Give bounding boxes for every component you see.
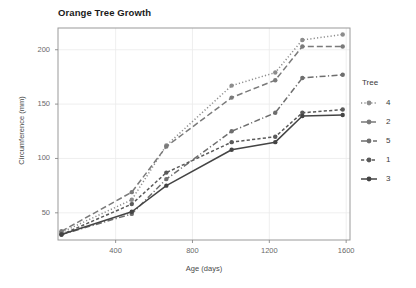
data-point-3 bbox=[59, 232, 63, 236]
y-axis-tick-label-text: 100 bbox=[37, 153, 50, 162]
legend-item-label: 5 bbox=[386, 136, 390, 145]
data-point-2 bbox=[341, 44, 345, 48]
x-axis-tick-label: 1200 bbox=[249, 246, 289, 255]
data-point-5 bbox=[341, 73, 345, 77]
legend-item-label: 1 bbox=[386, 155, 390, 164]
data-point-2 bbox=[164, 144, 168, 148]
data-point-3 bbox=[229, 148, 233, 152]
legend-key-icon bbox=[360, 153, 378, 167]
data-point-5 bbox=[300, 76, 304, 80]
data-point-1 bbox=[130, 202, 134, 206]
legend-item-2[interactable]: 2 bbox=[360, 115, 412, 129]
y-axis-tick-label: 100 bbox=[22, 153, 50, 163]
data-point-2 bbox=[300, 44, 304, 48]
data-point-1 bbox=[164, 170, 168, 174]
data-point-3 bbox=[341, 113, 345, 117]
legend-item-label: 2 bbox=[386, 117, 390, 126]
data-point-4 bbox=[229, 83, 233, 87]
x-axis-tick-label: 1600 bbox=[326, 246, 366, 255]
chart-title: Orange Tree Growth bbox=[58, 7, 151, 18]
data-point-3 bbox=[130, 210, 134, 214]
data-point-3 bbox=[164, 183, 168, 187]
data-point-4 bbox=[300, 38, 304, 42]
x-axis-tick-label: 800 bbox=[172, 246, 212, 255]
legend-item-label: 4 bbox=[386, 98, 390, 107]
plot-area bbox=[0, 0, 416, 288]
legend-item-3[interactable]: 3 bbox=[360, 172, 412, 186]
legend-item-4[interactable]: 4 bbox=[360, 96, 412, 110]
data-point-4 bbox=[130, 198, 134, 202]
data-point-4 bbox=[273, 70, 277, 74]
legend-item-5[interactable]: 5 bbox=[360, 134, 412, 148]
x-axis-label: Age (days) bbox=[58, 264, 350, 273]
data-point-5 bbox=[229, 129, 233, 133]
data-point-1 bbox=[229, 140, 233, 144]
y-axis-tick-label: 150 bbox=[22, 99, 50, 109]
legend-key-icon bbox=[360, 134, 378, 148]
data-point-2 bbox=[273, 78, 277, 82]
legend-key-icon bbox=[360, 96, 378, 110]
legend-key-icon bbox=[360, 115, 378, 129]
data-point-2 bbox=[229, 95, 233, 99]
x-axis-tick-label: 400 bbox=[96, 246, 136, 255]
data-point-1 bbox=[273, 135, 277, 139]
y-axis-tick-label: 200 bbox=[22, 45, 50, 55]
data-point-5 bbox=[273, 111, 277, 115]
data-point-3 bbox=[300, 114, 304, 118]
y-axis-label: Circumference (mm) bbox=[17, 66, 26, 196]
legend-item-1[interactable]: 1 bbox=[360, 153, 412, 167]
y-axis-tick-label-text: 150 bbox=[37, 99, 50, 108]
data-point-4 bbox=[341, 32, 345, 36]
legend-item-label: 3 bbox=[386, 174, 390, 183]
data-point-2 bbox=[130, 190, 134, 194]
y-axis-tick-label: 50 bbox=[22, 208, 50, 218]
data-point-1 bbox=[341, 107, 345, 111]
chart-container: Orange Tree Growth Circumference (mm) Ag… bbox=[0, 0, 416, 288]
y-axis-tick-label-text: 50 bbox=[42, 208, 50, 217]
y-axis-tick-label-text: 200 bbox=[37, 45, 50, 54]
legend-title: Tree bbox=[362, 78, 378, 87]
legend-key-icon bbox=[360, 172, 378, 186]
data-point-3 bbox=[273, 140, 277, 144]
data-point-5 bbox=[164, 177, 168, 181]
